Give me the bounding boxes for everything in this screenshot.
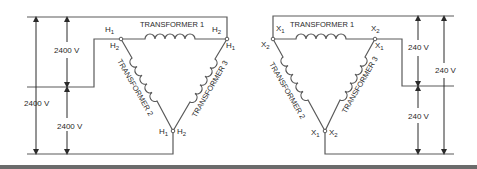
- secondary-voltage-total: 240 V: [435, 66, 457, 75]
- primary-transformer-1-winding: [121, 34, 227, 39]
- primary-terminal-h2-top-left: H2: [110, 41, 120, 51]
- secondary-terminal-x1-top-left: X1: [276, 24, 285, 34]
- primary-line-3: [27, 131, 173, 154]
- primary-terminal-h1-top-left: H1: [105, 25, 115, 35]
- secondary-terminal-x2-bottom: X2: [329, 128, 338, 138]
- secondary-transformer-1-label: TRANSFORMER 1: [290, 20, 354, 29]
- bottom-divider-bar: [0, 165, 477, 169]
- primary-terminal-h2-top-right: H2: [212, 25, 222, 35]
- secondary-transformer-2-label: TRANSFORMER 2: [267, 61, 307, 121]
- primary-terminal-h2-bottom: H2: [177, 127, 187, 137]
- primary-voltage-upper: 2400 V: [54, 46, 80, 55]
- secondary-line-3: [325, 131, 454, 154]
- primary-terminal-h1-top-right: H1: [226, 41, 236, 51]
- secondary-terminal-x1-top-right: X1: [375, 41, 384, 51]
- secondary-transformer-3-winding: [325, 39, 375, 131]
- primary-transformer-1-label: TRANSFORMER 1: [140, 20, 204, 29]
- secondary-voltage-lower: 240 V: [408, 112, 430, 121]
- secondary-transformer-3-label: TRANSFORMER 3: [340, 55, 380, 115]
- primary-side: [27, 17, 227, 154]
- delta-delta-transformer-diagram: 2400 V 2400 V 2400 V TRANSFORMER 1 TRANS…: [0, 0, 477, 169]
- primary-voltage-total: 2400 V: [24, 99, 50, 108]
- primary-transformer-2-label: TRANSFORMER 2: [115, 58, 155, 118]
- secondary-terminal-x2-top-right: X2: [371, 24, 380, 34]
- secondary-voltage-upper: 240 V: [408, 43, 430, 52]
- primary-terminal-h1-bottom: H1: [159, 127, 169, 137]
- secondary-terminal-x1-bottom: X1: [311, 128, 320, 138]
- secondary-terminal-x2-top-left: X2: [261, 40, 270, 50]
- primary-transformer-3-winding: [173, 39, 227, 131]
- primary-voltage-lower: 2400 V: [57, 122, 83, 131]
- secondary-transformer-1-winding: [273, 34, 375, 39]
